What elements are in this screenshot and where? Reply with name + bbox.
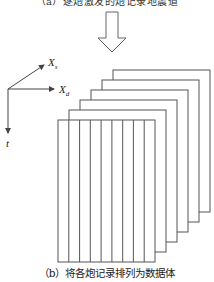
data-volume: [58, 70, 210, 262]
figure-caption-b: （b）将各炮记录排列为数据体: [0, 265, 214, 280]
t-axis-label: t: [6, 137, 10, 149]
hollow-down-arrow-icon: [98, 12, 126, 52]
xd-axis-label: Xd: [58, 83, 70, 98]
panel-1-front: [58, 120, 155, 262]
xs-axis: [8, 65, 44, 89]
diagram-canvas: Xs Xd t: [0, 0, 214, 282]
xs-axis-label: Xs: [47, 56, 58, 71]
